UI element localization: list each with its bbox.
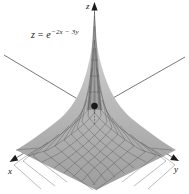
equation-label: z = e−2x − 3y [31, 28, 79, 40]
origin-dot [91, 103, 98, 110]
axis-y-arrowhead [170, 154, 179, 161]
axis-label-x: x [8, 166, 12, 176]
axis-label-y: y [174, 164, 178, 174]
equation-exponent: −2x − 3y [51, 28, 79, 36]
surface-plot-figure: z = e−2x − 3y x y z [0, 0, 189, 194]
axis-z-arrowhead [91, 2, 97, 11]
axis-x-arrowhead [10, 155, 19, 162]
axis-label-z: z [86, 1, 90, 11]
plot-canvas [0, 0, 189, 194]
